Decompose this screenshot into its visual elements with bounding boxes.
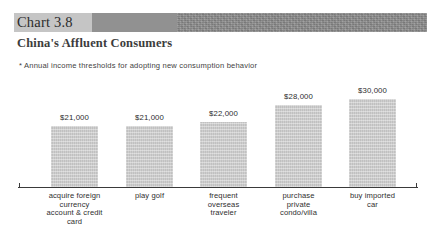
bar-category-label: play golf	[111, 192, 189, 201]
bar-category-line: condo/villa	[260, 209, 338, 218]
bar-value-label: $30,000	[358, 86, 387, 95]
bar-category-line: play golf	[111, 192, 189, 201]
bar-group: $28,000 purchase private condo/villa	[275, 105, 322, 187]
bar-value-label: $21,000	[60, 113, 89, 122]
bar-rect	[126, 126, 173, 187]
axis-tick-right	[416, 183, 417, 188]
bar-group: $21,000 play golf	[126, 126, 173, 187]
bar-rect	[275, 105, 322, 187]
chart-baseline-axis	[18, 187, 418, 188]
bar-group: $22,000 frequent overseas traveler	[200, 122, 247, 187]
bar-category-label: buy imported car	[334, 192, 412, 209]
chart-plot-area: $21,000 acquire foreign currency account…	[0, 0, 441, 239]
bar-category-line: car	[334, 201, 412, 210]
bar-rect	[51, 126, 98, 187]
bar-category-line: card	[36, 218, 114, 227]
bar-category-label: purchase private condo/villa	[260, 192, 338, 218]
bar-category-line: traveler	[185, 209, 263, 218]
bar-value-label: $28,000	[284, 92, 313, 101]
bar-group: $21,000 acquire foreign currency account…	[51, 126, 98, 187]
bar-category-label: acquire foreign currency account & credi…	[36, 192, 114, 226]
axis-tick-left	[19, 183, 20, 188]
bar-rect	[200, 122, 247, 187]
bar-value-label: $22,000	[209, 109, 238, 118]
bar-group: $30,000 buy imported car	[349, 99, 396, 187]
bar-category-label: frequent overseas traveler	[185, 192, 263, 218]
bar-value-label: $21,000	[135, 113, 164, 122]
bar-rect	[349, 99, 396, 187]
